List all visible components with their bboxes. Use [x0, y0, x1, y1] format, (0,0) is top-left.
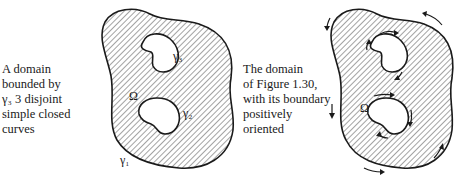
gamma3-label: γ₃	[172, 49, 183, 63]
omega-label: Ω	[129, 89, 138, 103]
figure-caption-right: The domain of Figure 1.30, with its boun…	[243, 62, 331, 137]
domain-figure-left: Ω γ₁ γ₃ γ₂	[95, 0, 245, 176]
omega-label-right: Ω	[360, 101, 369, 115]
gamma1-label: γ₁	[119, 153, 130, 167]
gamma2-label: γ₂	[182, 106, 193, 120]
domain-figure-right: Ω	[322, 0, 460, 176]
outer-boundary-curve	[102, 9, 233, 168]
figure-caption-left: A domain bounded by γ₃ 3 disjoint simple…	[2, 62, 70, 137]
outer-boundary-curve-oriented	[331, 9, 453, 168]
